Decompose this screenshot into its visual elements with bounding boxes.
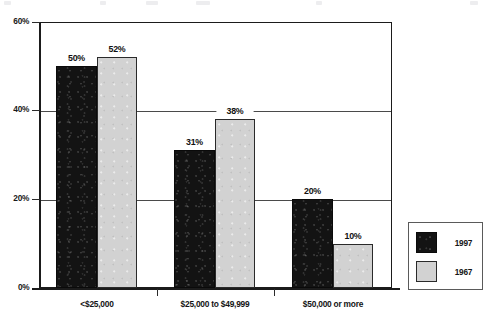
bar-value-label: 52%	[98, 43, 135, 54]
y-tick-label: 20%	[13, 193, 29, 203]
y-tick-label: 60%	[13, 16, 29, 26]
bar-1997-50000-or-more	[292, 199, 333, 288]
black-swatch-icon	[416, 232, 437, 253]
bar-value-label: 10%	[334, 230, 371, 241]
x-axis-line	[32, 288, 400, 290]
scan-artifact-row	[0, 0, 488, 9]
y-tick-mark	[32, 22, 40, 23]
legend-entry-1967: 1967	[416, 261, 473, 282]
bar-1967-25000-49999	[215, 119, 255, 288]
legend-label: 1997	[455, 238, 472, 248]
bar-1997-25000-49999	[174, 150, 215, 288]
legend-label: 1967	[455, 267, 472, 277]
bar-value-label: 38%	[216, 105, 253, 116]
bar-chart: 60% 40% 20% 0% 50% 52% <$25,000 31% 38% …	[0, 0, 488, 324]
legend: 1997 1967	[408, 222, 483, 290]
x-category-label-2: $25,000 to $49,999	[163, 299, 267, 309]
bar-1967-50000-or-more	[333, 244, 373, 288]
bar-1967-lt25000	[97, 57, 137, 288]
y-tick-label: 40%	[13, 104, 29, 114]
y-tick-mark	[32, 199, 40, 200]
y-axis-line	[39, 22, 41, 289]
x-category-label-3: $50,000 or more	[281, 299, 385, 309]
y-tick-label: 0%	[18, 282, 29, 292]
x-category-label-1: <$25,000	[45, 299, 149, 309]
bar-value-label: 50%	[57, 52, 95, 63]
bar-value-label: 20%	[293, 185, 331, 196]
bar-value-label: 31%	[175, 136, 213, 147]
bar-1997-lt25000	[56, 66, 97, 288]
y-tick-mark	[32, 110, 40, 111]
x-tick-divider-1	[157, 289, 158, 296]
x-tick-divider-2	[274, 289, 275, 296]
gray-swatch-icon	[416, 261, 437, 282]
legend-entry-1997: 1997	[416, 232, 473, 253]
